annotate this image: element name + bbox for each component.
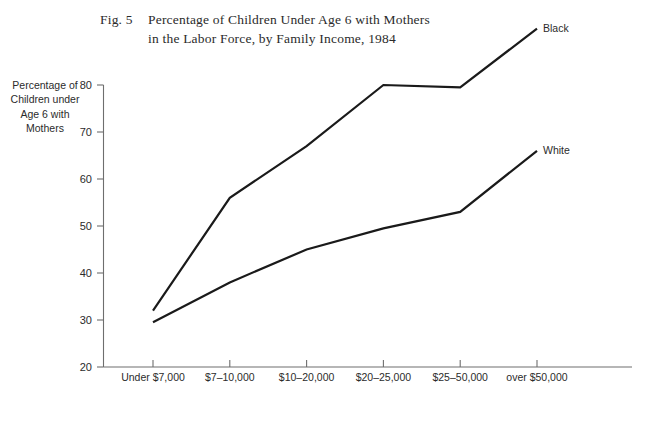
y-tick-label: 80 (62, 79, 92, 91)
y-tick-label: 20 (62, 361, 92, 373)
x-tick-label: $25–50,000 (432, 371, 487, 383)
chart-plot-area (0, 0, 648, 421)
series-label-black: Black (543, 22, 569, 34)
axes (104, 85, 633, 367)
y-tick-label: 40 (62, 267, 92, 279)
x-tick-label: $7–10,000 (205, 371, 255, 383)
series-label-white: White (543, 144, 570, 156)
x-axis-ticks (153, 360, 537, 367)
series-line-black (153, 29, 537, 311)
figure-root: Fig. 5Percentage of Children Under Age 6… (0, 0, 648, 421)
x-tick-label: Under $7,000 (121, 371, 185, 383)
x-tick-label: $20–25,000 (356, 371, 411, 383)
y-tick-label: 50 (62, 220, 92, 232)
y-tick-label: 30 (62, 314, 92, 326)
y-tick-label: 70 (62, 126, 92, 138)
series-line-white (153, 151, 537, 323)
x-tick-label: $10–20,000 (279, 371, 334, 383)
y-axis-ticks (97, 85, 104, 367)
y-tick-label: 60 (62, 173, 92, 185)
data-series-group (153, 29, 537, 323)
x-tick-label: over $50,000 (506, 371, 567, 383)
